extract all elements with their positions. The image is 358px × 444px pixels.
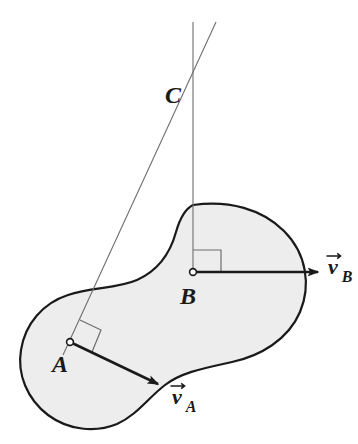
rigid-body-blob [20,204,306,429]
point-marker-a [67,339,74,346]
point-label-a: A [50,351,68,377]
figure-canvas: A B C v B v A [0,0,358,444]
point-marker-b [190,269,197,276]
kinematics-diagram: A B C v B v A [0,0,358,444]
vector-label-base-va: v [172,384,182,409]
point-label-c: C [165,82,182,108]
vector-label-subscript-vb: B [341,268,353,285]
vector-label-base-vb: v [328,254,338,279]
vector-label-subscript-va: A [185,398,197,415]
vector-label-va: v A [171,383,197,415]
point-label-b: B [179,283,196,309]
vector-label-vb: v B [327,253,353,285]
